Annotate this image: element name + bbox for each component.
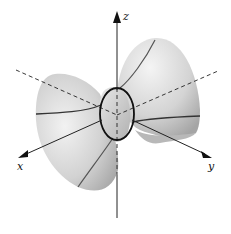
z-axis-label: z xyxy=(122,10,129,23)
z-axis-arrow-icon xyxy=(113,11,121,23)
y-axis-arrow-icon xyxy=(201,151,212,158)
x-axis-label: x xyxy=(17,160,24,173)
hyperboloid-diagram: z x y xyxy=(0,0,231,234)
y-axis-label: y xyxy=(207,160,215,173)
x-axis-arrow-icon xyxy=(18,150,28,158)
